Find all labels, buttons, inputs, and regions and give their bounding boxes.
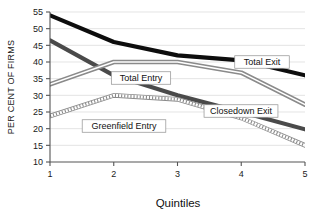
x-tick-label: 1 <box>47 169 52 179</box>
y-tick-label: 30 <box>33 91 43 101</box>
x-tick-label: 4 <box>239 169 244 179</box>
y-tick-label: 35 <box>33 74 43 84</box>
line-chart: 10152025303540455055 12345 PER CENT OF F… <box>0 0 321 219</box>
series-label-total-entry: Total Entry <box>111 72 170 85</box>
y-tick-label: 50 <box>33 24 43 34</box>
series-label-closedown-exit: Closedown Exit <box>204 105 278 118</box>
series-label-text: Total Entry <box>120 73 163 83</box>
y-axis-title: PER CENT OF FIRMS <box>6 40 16 134</box>
y-tick-label: 55 <box>33 7 43 17</box>
y-tick-label: 40 <box>33 57 43 67</box>
chart-container: 10152025303540455055 12345 PER CENT OF F… <box>0 0 321 219</box>
series-label-total-exit: Total Exit <box>235 56 290 69</box>
series-label-greenfield-entry: Greenfield Entry <box>82 120 166 133</box>
x-tick-label: 3 <box>175 169 180 179</box>
x-tick-label: 5 <box>302 169 307 179</box>
x-axis-title: Quintiles <box>156 197 201 209</box>
series-label-text: Greenfield Entry <box>91 121 157 131</box>
y-tick-label: 25 <box>33 107 43 117</box>
series-label-text: Closedown Exit <box>210 106 273 116</box>
y-tick-label: 10 <box>33 157 43 167</box>
x-tick-label: 2 <box>111 169 116 179</box>
y-tick-label: 15 <box>33 141 43 151</box>
series-label-text: Total Exit <box>244 57 281 67</box>
y-tick-label: 20 <box>33 124 43 134</box>
y-tick-label: 45 <box>33 41 43 51</box>
